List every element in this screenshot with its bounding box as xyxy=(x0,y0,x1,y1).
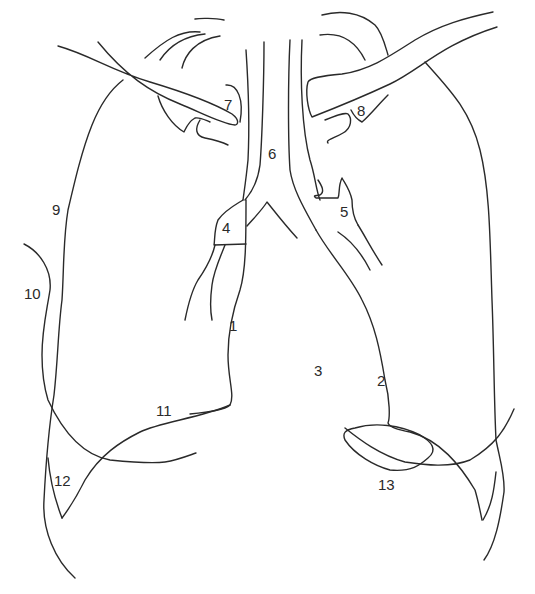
chest-diagram: 1 2 3 4 5 6 7 8 9 10 11 12 13 xyxy=(0,0,535,594)
label-layer: 1 2 3 4 5 6 7 8 9 10 11 12 13 xyxy=(0,0,535,594)
label-1: 1 xyxy=(229,317,237,334)
label-13: 13 xyxy=(378,476,395,493)
label-10: 10 xyxy=(24,285,41,302)
label-9: 9 xyxy=(52,201,60,218)
label-11: 11 xyxy=(156,402,172,419)
label-4: 4 xyxy=(222,219,230,236)
label-8: 8 xyxy=(357,102,365,119)
label-3: 3 xyxy=(314,362,322,379)
label-7: 7 xyxy=(224,96,232,113)
label-2: 2 xyxy=(377,372,385,389)
label-12: 12 xyxy=(54,472,71,489)
label-5: 5 xyxy=(340,203,348,220)
label-6: 6 xyxy=(268,145,276,162)
